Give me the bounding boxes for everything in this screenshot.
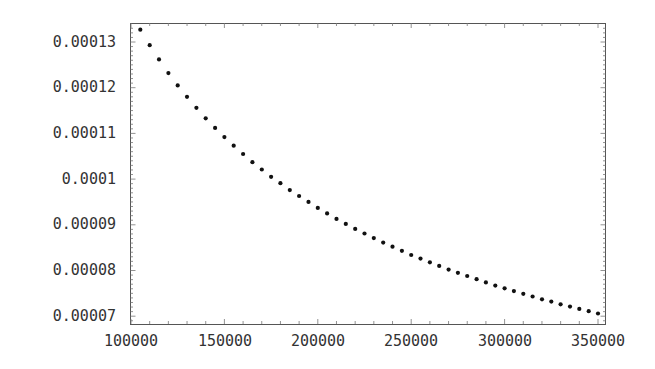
y-tick-label: 0.00011 xyxy=(53,124,116,142)
data-point xyxy=(418,257,422,261)
y-axis-labels: 0.00007 0.00008 0.00009 0.0001 0.00011 0… xyxy=(53,33,116,325)
y-tick-label: 0.00009 xyxy=(53,215,116,233)
data-point xyxy=(353,227,357,231)
data-point xyxy=(428,260,432,264)
x-tick-label: 150000 xyxy=(198,332,252,350)
y-tick-label: 0.00007 xyxy=(53,307,116,325)
data-point xyxy=(447,268,451,272)
y-tick-label: 0.00012 xyxy=(53,78,116,96)
data-point xyxy=(288,188,292,192)
data-point xyxy=(213,126,217,130)
data-point xyxy=(316,206,320,210)
data-point xyxy=(344,222,348,226)
x-tick-label: 300000 xyxy=(478,332,532,350)
data-point xyxy=(185,95,189,99)
data-point xyxy=(512,289,516,293)
data-point xyxy=(475,277,479,281)
data-point xyxy=(409,253,413,257)
x-tick-label: 100000 xyxy=(104,332,158,350)
data-point xyxy=(334,217,338,221)
data-point xyxy=(232,144,236,148)
data-point xyxy=(503,286,507,290)
data-point xyxy=(400,249,404,253)
data-point xyxy=(222,135,226,139)
data-point xyxy=(148,43,152,47)
data-point xyxy=(204,116,208,120)
data-point xyxy=(531,294,535,298)
data-point xyxy=(437,264,441,268)
data-point xyxy=(484,280,488,284)
data-point xyxy=(549,300,553,304)
y-tick-label: 0.0001 xyxy=(62,170,116,188)
data-point xyxy=(250,160,254,164)
data-point xyxy=(540,297,544,301)
data-point xyxy=(260,167,264,171)
data-point xyxy=(269,175,273,179)
x-tick-label: 250000 xyxy=(384,332,438,350)
data-point xyxy=(325,211,329,215)
data-point xyxy=(390,245,394,249)
plot-frame xyxy=(131,24,606,325)
x-tick-label: 350000 xyxy=(571,332,625,350)
data-point xyxy=(568,305,572,309)
data-point xyxy=(138,28,142,32)
data-points xyxy=(138,28,600,316)
x-axis-labels: 100000 150000 200000 250000 300000 35000… xyxy=(104,332,625,350)
data-point xyxy=(559,302,563,306)
y-tick-label: 0.00013 xyxy=(53,33,116,51)
data-point xyxy=(176,83,180,87)
data-point xyxy=(241,152,245,156)
data-point xyxy=(456,271,460,275)
data-point xyxy=(521,292,525,296)
data-point xyxy=(278,181,282,185)
data-point xyxy=(166,71,170,75)
data-point xyxy=(493,284,497,288)
data-point xyxy=(577,307,581,311)
data-point xyxy=(465,274,469,278)
data-point xyxy=(587,309,591,313)
scatter-chart: 100000 150000 200000 250000 300000 35000… xyxy=(0,0,655,369)
data-point xyxy=(596,311,600,315)
data-point xyxy=(362,231,366,235)
y-tick-label: 0.00008 xyxy=(53,261,116,279)
data-point xyxy=(372,236,376,240)
x-tick-label: 200000 xyxy=(291,332,345,350)
x-axis-ticks xyxy=(131,23,598,324)
data-point xyxy=(194,106,198,110)
data-point xyxy=(306,200,310,204)
y-axis-ticks xyxy=(131,28,606,320)
data-point xyxy=(297,194,301,198)
data-point xyxy=(381,241,385,245)
data-point xyxy=(157,57,161,61)
